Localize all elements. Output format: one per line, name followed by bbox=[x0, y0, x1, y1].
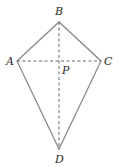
vertex-label-d: D bbox=[54, 153, 64, 166]
kite-figure: B A C P D bbox=[0, 0, 119, 167]
vertex-label-a: A bbox=[5, 55, 14, 68]
intersection-label-p: P bbox=[61, 64, 70, 77]
kite-diagram: B A C P D bbox=[0, 0, 119, 167]
vertex-label-b: B bbox=[54, 5, 63, 18]
vertex-label-c: C bbox=[104, 55, 113, 68]
